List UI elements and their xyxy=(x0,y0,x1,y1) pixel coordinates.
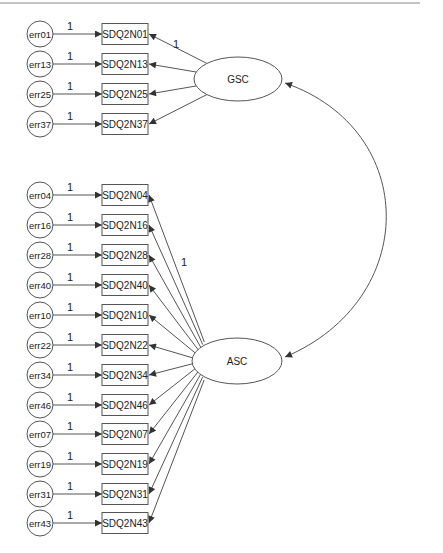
diagram-svg: 11err01SDQ2N011err13SDQ2N131err25SDQ2N25… xyxy=(0,0,443,553)
sem-diagram: 11err01SDQ2N011err13SDQ2N131err25SDQ2N25… xyxy=(0,0,443,553)
loading-path-arrow xyxy=(149,377,203,494)
error-weight-label: 1 xyxy=(67,181,73,193)
indicator-node-label: SDQ2N04 xyxy=(102,190,148,201)
covariance-arrow xyxy=(285,83,386,357)
indicator-node-label: SDQ2N37 xyxy=(102,119,148,130)
indicator-node-label: SDQ2N46 xyxy=(102,400,148,411)
error-node-label: err28 xyxy=(29,250,51,261)
indicator-node-label: SDQ2N13 xyxy=(102,59,148,70)
indicator-node-label: SDQ2N31 xyxy=(102,489,148,500)
indicator-node-label: SDQ2N22 xyxy=(102,340,148,351)
error-node-label: err46 xyxy=(29,400,51,411)
error-node-label: err01 xyxy=(29,29,51,40)
error-weight-label: 1 xyxy=(67,110,73,122)
error-node-label: err16 xyxy=(29,220,51,231)
indicator-node-label: SDQ2N34 xyxy=(102,370,148,381)
indicator-node-label: SDQ2N43 xyxy=(102,518,148,529)
loading-path-arrow xyxy=(149,64,196,72)
error-weight-label: 1 xyxy=(67,391,73,403)
fixed-loading-label: 1 xyxy=(173,38,179,50)
latent-node-label: ASC xyxy=(227,356,248,367)
error-weight-label: 1 xyxy=(67,420,73,432)
loading-path-arrow xyxy=(149,255,201,348)
error-node-label: err43 xyxy=(29,518,51,529)
error-node-label: err04 xyxy=(29,190,51,201)
indicator-node-label: SDQ2N19 xyxy=(102,459,148,470)
error-node-label: err13 xyxy=(29,59,51,70)
loading-path-arrow xyxy=(149,380,204,523)
indicator-node-label: SDQ2N40 xyxy=(102,280,148,291)
fixed-loading-label: 1 xyxy=(181,256,187,268)
error-weight-label: 1 xyxy=(67,361,73,373)
loading-path-arrow xyxy=(149,345,197,359)
error-weight-label: 1 xyxy=(67,301,73,313)
error-node-label: err34 xyxy=(29,370,51,381)
error-node-label: err37 xyxy=(29,119,51,130)
error-weight-label: 1 xyxy=(67,450,73,462)
indicator-node-label: SDQ2N01 xyxy=(102,29,148,40)
latent-node-label: GSC xyxy=(227,74,249,85)
error-weight-label: 1 xyxy=(67,20,73,32)
indicator-node-label: SDQ2N10 xyxy=(102,310,148,321)
diagram-nodes: 11err01SDQ2N011err13SDQ2N131err25SDQ2N25… xyxy=(27,20,282,536)
error-weight-label: 1 xyxy=(67,211,73,223)
error-node-label: err25 xyxy=(29,89,51,100)
error-weight-label: 1 xyxy=(67,80,73,92)
indicator-node-label: SDQ2N25 xyxy=(102,89,148,100)
error-node-label: err19 xyxy=(29,459,51,470)
loading-path-arrow xyxy=(149,285,200,352)
indicator-node-label: SDQ2N28 xyxy=(102,250,148,261)
indicator-node-label: SDQ2N07 xyxy=(102,429,148,440)
error-weight-label: 1 xyxy=(67,480,73,492)
loading-path-arrow xyxy=(149,95,207,124)
loading-path-arrow xyxy=(149,366,198,405)
loading-path-arrow xyxy=(149,370,200,434)
loading-path-arrow xyxy=(149,373,201,464)
loading-path-arrow xyxy=(149,225,203,345)
error-node-label: err31 xyxy=(29,489,51,500)
error-node-label: err22 xyxy=(29,340,51,351)
loading-path-arrow xyxy=(149,315,198,355)
loading-path-arrow xyxy=(149,86,196,94)
error-node-label: err07 xyxy=(29,429,51,440)
error-weight-label: 1 xyxy=(67,241,73,253)
error-node-label: err40 xyxy=(29,280,51,291)
error-weight-label: 1 xyxy=(67,509,73,521)
error-weight-label: 1 xyxy=(67,271,73,283)
error-node-label: err10 xyxy=(29,310,51,321)
error-weight-label: 1 xyxy=(67,331,73,343)
loading-path-arrow xyxy=(149,195,204,342)
error-weight-label: 1 xyxy=(67,50,73,62)
indicator-node-label: SDQ2N16 xyxy=(102,220,148,231)
